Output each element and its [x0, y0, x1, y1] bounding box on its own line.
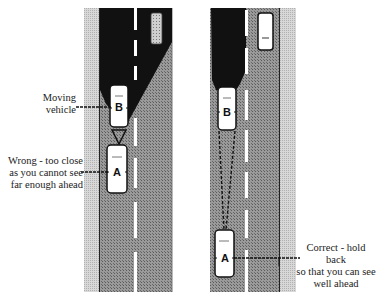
left-car-top — [151, 13, 162, 44]
label-line: well ahead — [296, 278, 376, 290]
label-line: Moving — [30, 92, 76, 104]
right-verge — [280, 8, 296, 292]
left-verge — [84, 8, 100, 292]
label-line: vehicle — [30, 104, 76, 116]
left-car-a-label: A — [113, 166, 121, 178]
right-road — [210, 8, 300, 292]
right-car-a-label: A — [221, 252, 229, 264]
left-road — [76, 8, 172, 292]
label-line: as you cannot see — [4, 167, 83, 179]
label-line: far enough ahead — [4, 179, 83, 191]
right-car-top — [258, 13, 273, 50]
wrong-label: Wrong - too close as you cannot see far … — [4, 155, 83, 191]
moving-vehicle-label: Moving vehicle — [30, 92, 76, 116]
correct-label: Correct - hold back so that you can see … — [296, 242, 376, 290]
right-car-b-label: B — [223, 106, 231, 118]
blind-zone — [211, 8, 246, 90]
label-line: so that you can see — [296, 266, 376, 278]
label-line: Correct - hold back — [296, 242, 376, 266]
label-line: Wrong - too close — [4, 155, 83, 167]
left-car-b-label: B — [115, 101, 123, 113]
